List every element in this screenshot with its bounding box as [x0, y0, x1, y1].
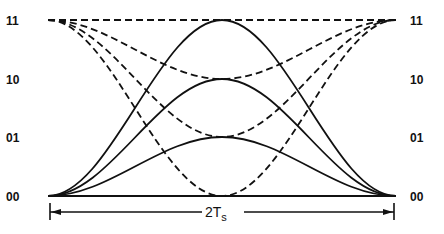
- right-level-label-00: 00: [410, 190, 424, 204]
- left-level-label-00: 00: [6, 190, 20, 204]
- interval-label: 2Ts: [205, 204, 227, 223]
- solid-curve-00-11: [48, 20, 396, 196]
- right-level-label-01: 01: [410, 131, 424, 145]
- left-level-label-10: 10: [6, 73, 20, 87]
- diagram-canvas: 11 10 01 00 11 10 01 00 2Ts: [0, 0, 444, 234]
- raised-cosine-level-diagram: 11 10 01 00 11 10 01 00 2Ts: [0, 0, 444, 234]
- arrow-left-head-icon: [51, 209, 61, 215]
- right-level-label-11: 11: [410, 14, 423, 28]
- arrow-right-head-icon: [383, 209, 393, 215]
- left-level-label-11: 11: [6, 14, 19, 28]
- dashed-curve-11-10: [48, 20, 396, 79]
- right-level-label-10: 10: [410, 73, 424, 87]
- solid-curve-00-01: [48, 137, 396, 196]
- left-level-label-01: 01: [6, 131, 20, 145]
- dashed-curve-11-00: [48, 20, 396, 196]
